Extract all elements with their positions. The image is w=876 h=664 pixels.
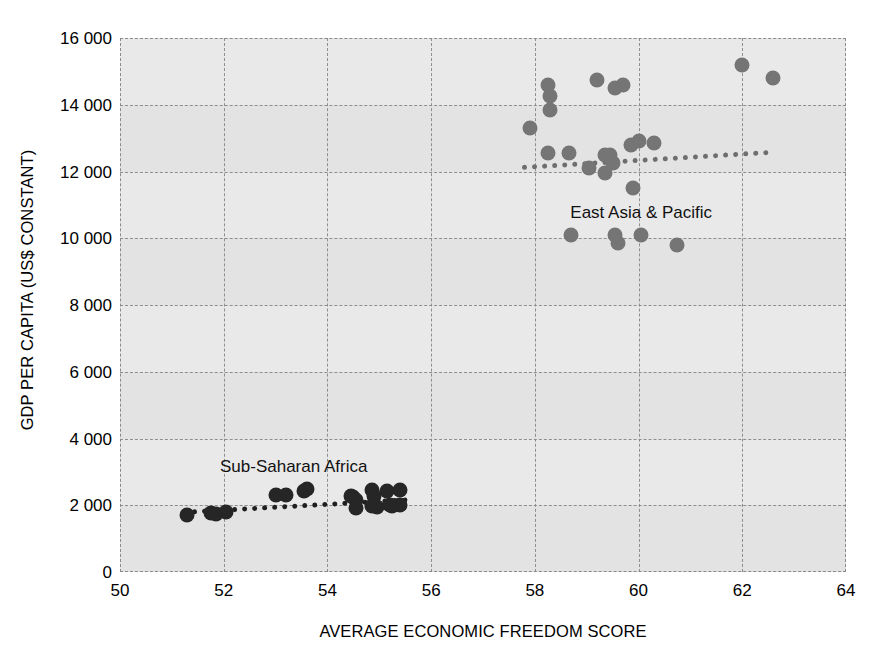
- x-tick-label: 62: [733, 582, 752, 599]
- x-tick-label: 50: [111, 582, 130, 599]
- x-tick-label: 56: [422, 582, 441, 599]
- x-axis-tick-labels: 5052545658606264: [0, 0, 876, 664]
- x-tick-label: 54: [318, 582, 337, 599]
- x-tick-label: 52: [214, 582, 233, 599]
- scatter-chart-figure: GDP PER CAPITA (US$ CONSTANT) 02 0004 00…: [0, 0, 876, 664]
- x-tick-label: 60: [629, 582, 648, 599]
- x-tick-label: 64: [837, 582, 856, 599]
- x-axis-title: AVERAGE ECONOMIC FREEDOM SCORE: [120, 622, 846, 641]
- x-tick-label: 58: [525, 582, 544, 599]
